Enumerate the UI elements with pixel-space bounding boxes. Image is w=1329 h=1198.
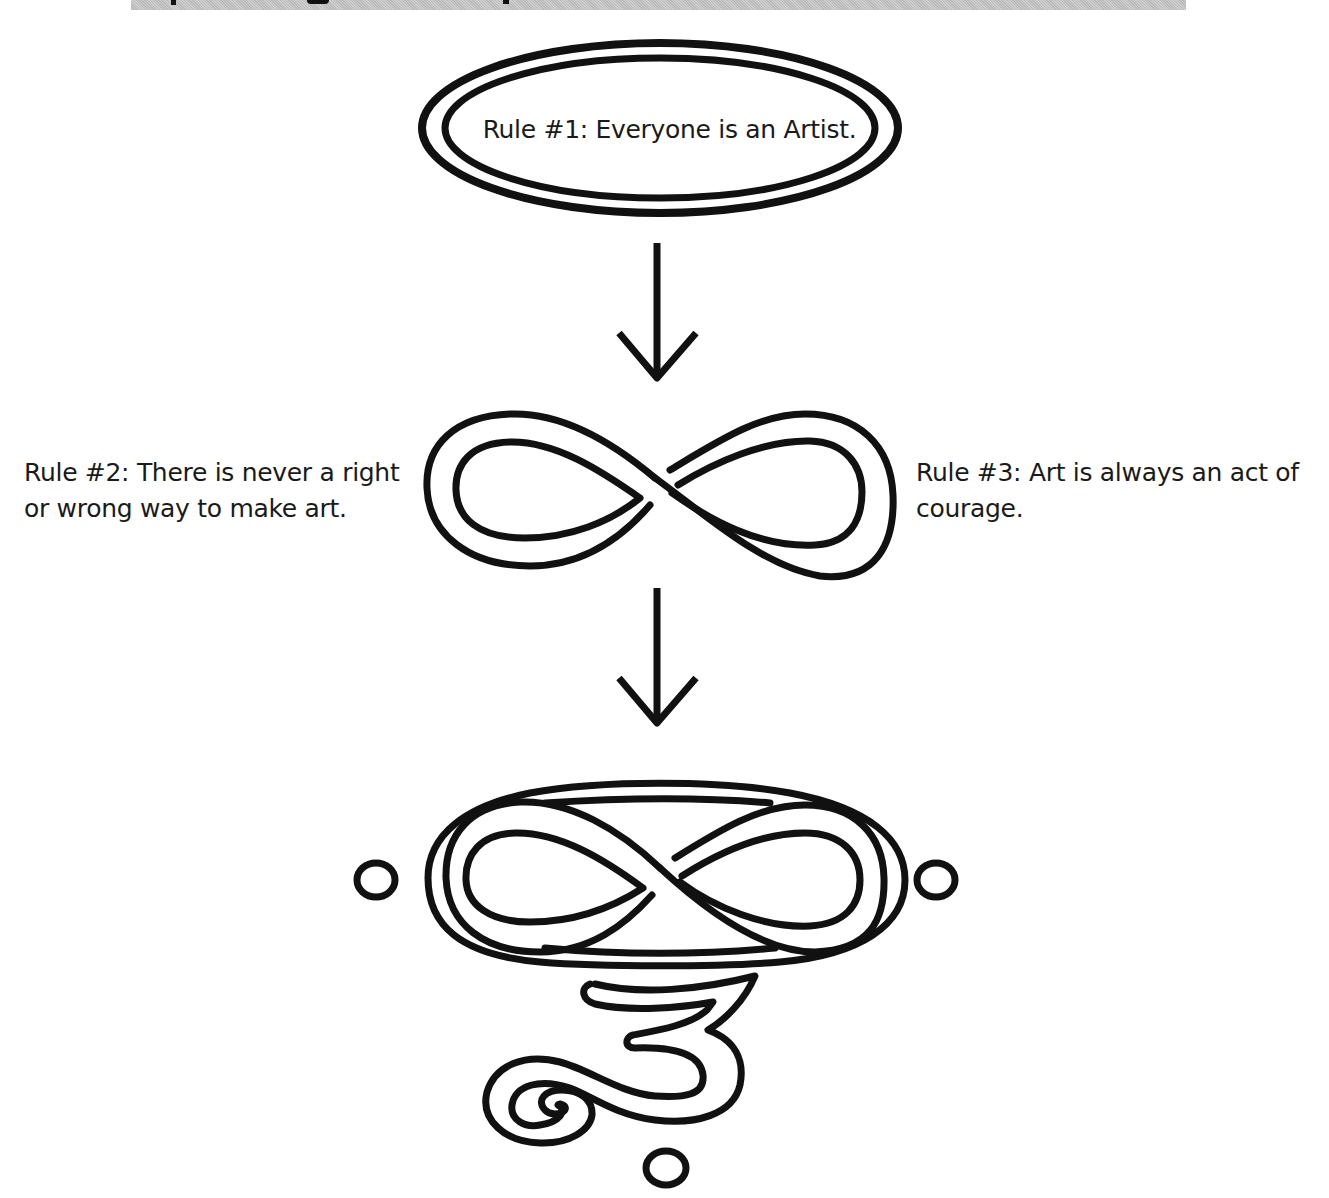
rule-2-line-1: Rule #2: There is never a right: [24, 455, 399, 491]
right-dot-icon: [917, 863, 955, 897]
infinity-icon: [427, 414, 893, 577]
rule-3-line-1: Rule #3: Art is always an act of: [916, 455, 1299, 491]
rule-2-label: Rule #2: There is never a right or wrong…: [24, 455, 399, 527]
infinity-oval-icon: [428, 783, 905, 966]
three-swirl-icon: [486, 976, 755, 1143]
rules-diagram: [0, 0, 1329, 1198]
rule-2-line-2: or wrong way to make art.: [24, 491, 399, 527]
rule-3-line-2: courage.: [916, 491, 1299, 527]
rule-1-label: Rule #1: Everyone is an Artist.: [0, 112, 1329, 148]
left-dot-icon: [357, 863, 395, 897]
arrow-down-icon: [619, 243, 696, 378]
arrow-down-icon: [619, 588, 696, 723]
rule-3-label: Rule #3: Art is always an act of courage…: [916, 455, 1299, 527]
bottom-dot-icon: [646, 1151, 686, 1185]
